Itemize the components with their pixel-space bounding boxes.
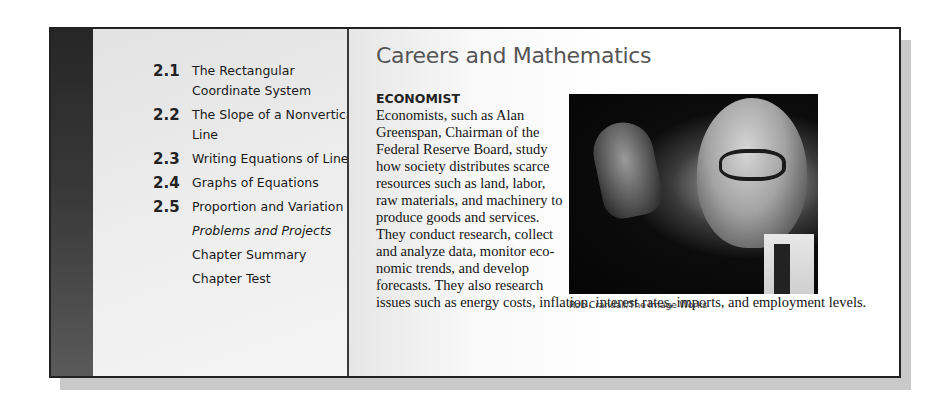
- toc-item-number: 2.1: [153, 61, 192, 101]
- careers-panel: Careers and Mathematics ECONOMIST Econom…: [349, 29, 899, 376]
- frame-shadow-right: [900, 40, 911, 390]
- toc-item-label: Graphs of Equations: [192, 173, 362, 193]
- toc-item-number: 2.4: [153, 173, 192, 193]
- toc-item-number: 2.2: [153, 105, 192, 145]
- dark-edge-strip: [51, 29, 93, 376]
- toc-item-label: Chapter Test: [192, 269, 362, 289]
- economist-photo: [569, 94, 818, 294]
- chapter-contents-panel: 2.1The Rectangular Coordinate System 2.2…: [93, 29, 347, 376]
- toc-item-label: Problems and Projects: [192, 221, 362, 241]
- toc-item-number: 2.5: [153, 197, 192, 217]
- toc-item-number: [153, 269, 192, 289]
- toc-item-number: 2.3: [153, 149, 192, 169]
- careers-title: Careers and Mathematics: [376, 43, 651, 68]
- toc-item-label: Writing Equations of Lines: [192, 149, 362, 169]
- chapter-opener-frame: 2.1The Rectangular Coordinate System 2.2…: [49, 27, 901, 378]
- toc-item: 2.5Proportion and Variation: [153, 197, 362, 217]
- career-description-wrapped: Economists, such as Alan Greenspan, Chai…: [376, 107, 566, 294]
- chapter-contents-list: 2.1The Rectangular Coordinate System 2.2…: [153, 61, 362, 293]
- frame-shadow-bottom: [60, 377, 911, 390]
- photo-hand-shape: [588, 117, 666, 222]
- photo-glasses-shape: [719, 149, 786, 181]
- toc-item-label: Proportion and Variation: [192, 197, 362, 217]
- toc-item: 2.2The Slope of a Nonvertical Line: [153, 105, 362, 145]
- toc-item: 2.4Graphs of Equations: [153, 173, 362, 193]
- toc-item-number: [153, 245, 192, 265]
- toc-item: 2.1The Rectangular Coordinate System: [153, 61, 362, 101]
- photo-tie-shape: [774, 244, 790, 294]
- toc-item: 2.3Writing Equations of Lines: [153, 149, 362, 169]
- toc-item-label: Chapter Summary: [192, 245, 362, 265]
- toc-item-label: The Slope of a Nonvertical Line: [192, 105, 362, 145]
- toc-item: Problems and Projects: [153, 221, 362, 241]
- career-heading: ECONOMIST: [376, 91, 460, 106]
- toc-item-label: The Rectangular Coordinate System: [192, 61, 362, 101]
- photo-credit-caption: Rob Crandall/The Image Works: [569, 299, 707, 310]
- toc-item: Chapter Test: [153, 269, 362, 289]
- toc-item-number: [153, 221, 192, 241]
- toc-item: Chapter Summary: [153, 245, 362, 265]
